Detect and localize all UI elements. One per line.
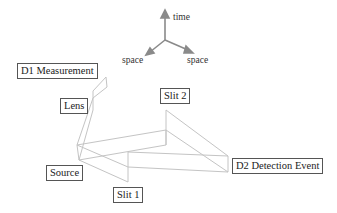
label-lens: Lens <box>60 98 88 114</box>
path-lines <box>77 77 228 182</box>
label-d2-detection-event: D2 Detection Event <box>232 158 323 174</box>
axis-label-time: time <box>173 12 190 22</box>
label-d1-measurement: D1 Measurement <box>17 63 98 79</box>
axis-label-space-right: space <box>187 55 208 65</box>
diagram-lines <box>0 0 337 213</box>
label-slit-1: Slit 1 <box>113 187 143 203</box>
diagram-canvas: time space space D1 Measurement Lens Sli… <box>0 0 337 213</box>
label-source: Source <box>46 165 83 181</box>
label-slit-2: Slit 2 <box>160 88 190 104</box>
axis-label-space-left: space <box>122 55 143 65</box>
